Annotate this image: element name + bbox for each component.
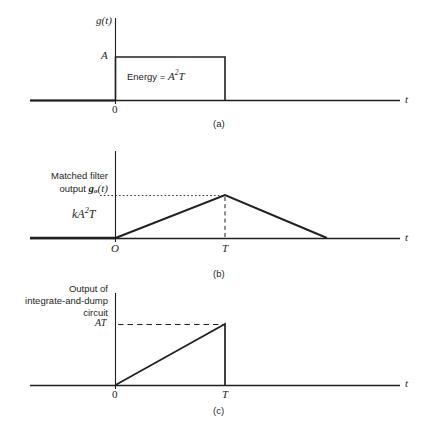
panel-c-x-axis-label: t: [405, 377, 408, 389]
panel-c-origin-label: 0: [112, 388, 118, 400]
panel-b-y-axis-label-line2: output: [60, 183, 86, 194]
panel-a-energy-suffix: T: [178, 70, 184, 82]
panel-a-plot: [0, 0, 424, 145]
panel-b-peak-label: kA2T: [72, 206, 95, 222]
figure-container: g(t) A Energy = A2T 0 t (a) Matched filt…: [0, 0, 424, 431]
panel-a-x-axis-label: t: [405, 93, 408, 105]
panel-a-energy-annotation: Energy = A2T: [127, 67, 185, 83]
panel-b-output-curve: [116, 195, 328, 238]
panel-b-tick-label-t: T: [222, 242, 228, 254]
panel-c-peak-label: AT: [95, 317, 106, 328]
panel-b-signal-arg: (t): [98, 182, 108, 194]
panel-a-origin-label: 0: [112, 103, 118, 115]
panel-b-caption: (b): [213, 268, 225, 279]
panel-c-caption: (c): [213, 405, 224, 416]
panel-c-y-axis-label-line2: integrate-and-dump: [25, 295, 108, 306]
panel-a-y-axis-label: g(t): [96, 14, 112, 26]
panel-b-plot: [0, 145, 424, 285]
panel-a-energy-base: A: [168, 70, 175, 82]
panel-b-y-axis-label-line1: Matched filter: [51, 170, 108, 181]
panel-c-tick-label-t: T: [222, 388, 228, 400]
panel-b-x-axis-label: t: [405, 231, 408, 243]
panel-a-amplitude-label: A: [101, 49, 108, 61]
panel-c-y-axis-label-line1: Output of: [69, 283, 108, 294]
panel-c-y-axis-label: Output of integrate-and-dump circuit: [10, 283, 108, 319]
panel-b-y-axis-label: Matched filter output go(t): [33, 170, 108, 197]
panel-b-origin-label: O: [111, 242, 119, 254]
panel-b-peak-base: A: [77, 207, 84, 221]
panel-b-peak-suffix: T: [89, 207, 96, 221]
panel-c-output-curve: [116, 324, 226, 385]
panel-a-caption: (a): [213, 118, 225, 129]
